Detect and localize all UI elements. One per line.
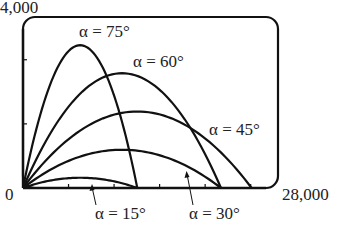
trajectory-alpha-60 — [23, 73, 221, 188]
label-alpha-75: α = 75° — [79, 22, 130, 41]
x-max-label: 28,000 — [282, 185, 329, 204]
y-max-label: 4,000 — [0, 0, 38, 17]
origin-label: 0 — [5, 185, 14, 204]
projectile-trajectories-chart: 4,000 0 28,000 α = 75° α = 60° α = 45° α… — [0, 0, 339, 232]
label-alpha-45: α = 45° — [209, 120, 260, 139]
label-alpha-60: α = 60° — [133, 52, 184, 71]
plot-frame — [23, 17, 278, 188]
trajectory-alpha-15 — [23, 178, 137, 188]
label-alpha-15: α = 15° — [95, 204, 146, 223]
label-alpha-30: α = 30° — [189, 204, 240, 223]
